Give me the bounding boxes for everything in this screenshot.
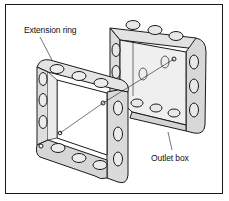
extension-ring-label: Extension ring xyxy=(24,25,76,35)
outlet-box-label: Outlet box xyxy=(151,153,189,163)
extension-ring-leader xyxy=(40,37,52,60)
outlet-box-leader xyxy=(168,132,172,150)
extension-ring-drawing xyxy=(36,60,128,183)
